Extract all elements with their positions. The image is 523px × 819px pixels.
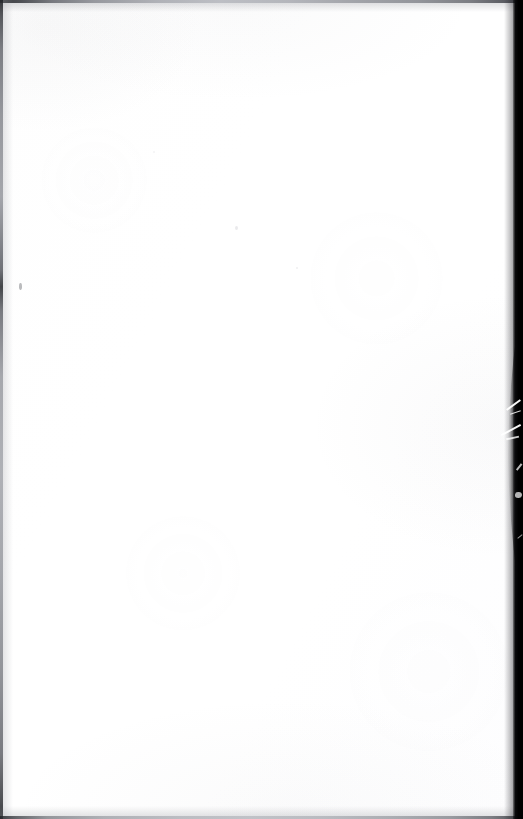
- top-scan-edge: [0, 0, 523, 3]
- scanned-page: [0, 0, 523, 819]
- paper-fleck: [235, 226, 238, 230]
- top-edge-falloff: [0, 3, 523, 12]
- left-edge-falloff: [3, 0, 13, 819]
- paper-surface: [0, 0, 523, 819]
- left-scan-edge: [0, 0, 3, 819]
- paper-fleck: [296, 267, 298, 269]
- right-gutter-shadow: [513, 0, 523, 819]
- paper-fleck: [19, 283, 22, 290]
- gutter-scratch-mark: [515, 492, 523, 498]
- paper-fleck: [153, 151, 155, 153]
- bottom-edge-falloff: [0, 806, 523, 816]
